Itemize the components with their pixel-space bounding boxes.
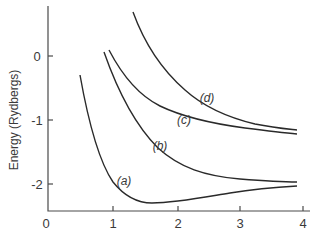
- y-tick-label: 0: [33, 49, 40, 64]
- y-axis-title: Energy (Rydbergs): [7, 70, 21, 171]
- curve-label-b: (b): [153, 139, 168, 153]
- y-tick-label: -2: [31, 177, 43, 192]
- curve-label-d: (d): [200, 91, 215, 105]
- chart-svg: 0 -1 -2 0 1 2 3 4 Energy (Rydbergs) (a) …: [0, 0, 327, 238]
- x-tick-label: 4: [299, 216, 306, 231]
- energy-curves-chart: 0 -1 -2 0 1 2 3 4 Energy (Rydbergs) (a) …: [0, 0, 327, 238]
- y-axis-tick-labels: 0 -1 -2: [31, 49, 43, 192]
- curve-a: [80, 75, 297, 203]
- x-tick-label: 2: [174, 216, 181, 231]
- curve-b: [104, 52, 297, 182]
- curve-d: [133, 12, 297, 130]
- x-tick-label: 1: [109, 216, 116, 231]
- x-axis-ticks: [113, 206, 303, 211]
- x-axis-tick-labels: 0 1 2 3 4: [42, 216, 306, 231]
- y-axis-ticks: [48, 56, 53, 184]
- x-tick-label: 3: [236, 216, 243, 231]
- curve-label-a: (a): [117, 174, 132, 188]
- y-tick-label: -1: [31, 113, 43, 128]
- x-tick-label: 0: [42, 216, 49, 231]
- curve-label-c: (c): [177, 113, 191, 127]
